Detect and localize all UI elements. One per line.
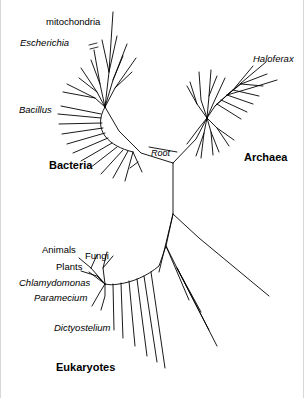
- eukaryote-clade: [79, 214, 269, 368]
- taxon-label-haloferax: Haloferax: [253, 54, 294, 64]
- domain-label-eukaryotes: Eukaryotes: [56, 362, 115, 373]
- taxon-label-chlamydomonas: Chlamydomonas: [19, 278, 90, 288]
- bacteria-clade: [58, 12, 142, 181]
- taxon-label-bacillus: Bacillus: [19, 105, 52, 115]
- taxon-label-plants: Plants: [56, 262, 82, 272]
- taxon-label-animals: Animals: [42, 245, 76, 255]
- taxon-label-dictyostelium: Dictyostelium: [54, 323, 111, 333]
- taxon-label-escherichia: Escherichia: [20, 38, 69, 48]
- trunk-lines: [105, 107, 207, 272]
- domain-label-bacteria: Bacteria: [49, 160, 92, 171]
- phylogenetic-tree-figure: mitochondria Escherichia Bacillus Halofe…: [0, 0, 304, 398]
- tree-branches: [58, 12, 277, 368]
- domain-label-archaea: Archaea: [244, 152, 287, 163]
- root-label: Root: [151, 149, 170, 158]
- taxon-label-mitochondria: mitochondria: [46, 17, 100, 27]
- archaea-clade: [187, 62, 277, 158]
- taxon-label-paramecium: Paramecium: [34, 293, 87, 303]
- taxon-label-fungi: Fungi: [85, 251, 109, 261]
